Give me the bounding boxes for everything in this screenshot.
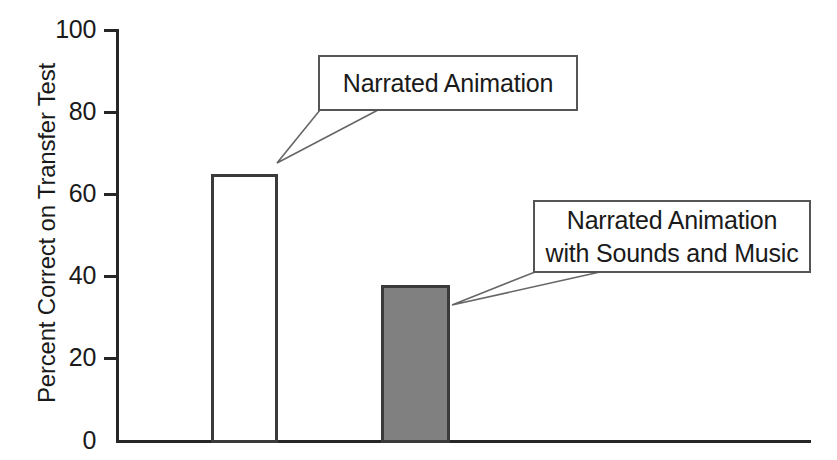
chart-figure: Percent Correct on Transfer Test 100 80 …	[0, 0, 837, 460]
bar-narrated-animation-sounds-music	[381, 285, 450, 443]
leader-line-callout-1	[277, 110, 378, 163]
y-tick-label-60-wrap: 60	[0, 181, 96, 206]
leader-line-callout-2	[452, 272, 600, 305]
y-axis-line	[116, 29, 119, 443]
callout-narrated-animation-sounds-music-line2: with Sounds and Music	[535, 237, 809, 270]
y-tick-label-80-wrap: 80	[0, 99, 96, 124]
y-tick-label-100-wrap: 100	[0, 17, 96, 42]
y-axis-title: Percent Correct on Transfer Test	[34, 23, 60, 443]
callout-narrated-animation-line1: Narrated Animation	[320, 67, 576, 100]
callout-narrated-animation: Narrated Animation	[318, 55, 578, 111]
y-tick-label-40: 40	[0, 263, 96, 288]
y-tick-label-20-wrap: 20	[0, 345, 96, 370]
y-tick-label-20: 20	[0, 345, 96, 370]
bar-narrated-animation	[211, 174, 278, 443]
callout-narrated-animation-sounds-music-line1: Narrated Animation	[535, 204, 809, 237]
y-tick-label-0-wrap: 0	[0, 428, 96, 453]
y-tick-label-60: 60	[0, 181, 96, 206]
callout-narrated-animation-sounds-music: Narrated Animation with Sounds and Music	[533, 200, 811, 273]
y-tick-label-40-wrap: 40	[0, 263, 96, 288]
y-tick-label-100: 100	[0, 17, 96, 42]
y-tick-label-0: 0	[0, 428, 96, 453]
y-tick-label-80: 80	[0, 99, 96, 124]
